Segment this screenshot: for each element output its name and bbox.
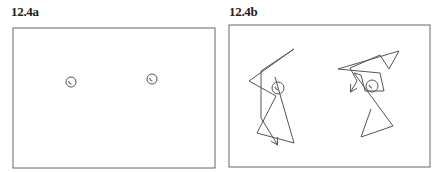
panel-frame (13, 28, 215, 168)
panel-a (13, 28, 215, 168)
movement-path (249, 49, 294, 144)
movement-path (338, 51, 399, 137)
figure-canvas (0, 0, 437, 172)
circle-mark (369, 85, 372, 88)
panel-b (229, 25, 430, 167)
circle-mark (69, 81, 72, 84)
circle-mark (150, 78, 153, 81)
panel-frame (229, 25, 430, 167)
target-circle (147, 74, 157, 84)
target-circle (366, 80, 378, 92)
target-circle (66, 77, 76, 87)
